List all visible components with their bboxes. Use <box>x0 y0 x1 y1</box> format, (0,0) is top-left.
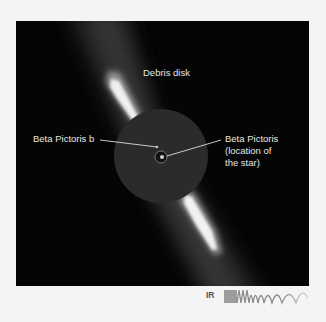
debris-disk-label: Debris disk <box>143 67 190 79</box>
astronomical-image: Debris disk Beta Pictoris b Beta Pictori… <box>16 21 309 286</box>
wave-spectrum-icon <box>224 288 310 306</box>
star-label-line-2: (location of <box>225 145 278 157</box>
star-label-line-3: the star) <box>225 157 278 169</box>
star-label-line-1: Beta Pictoris <box>225 133 278 145</box>
star-label: Beta Pictoris (location of the star) <box>225 133 278 169</box>
spectrum-indicator: IR <box>206 288 311 306</box>
ir-band-label: IR <box>206 290 215 300</box>
planet-label: Beta Pictoris b <box>33 133 94 145</box>
